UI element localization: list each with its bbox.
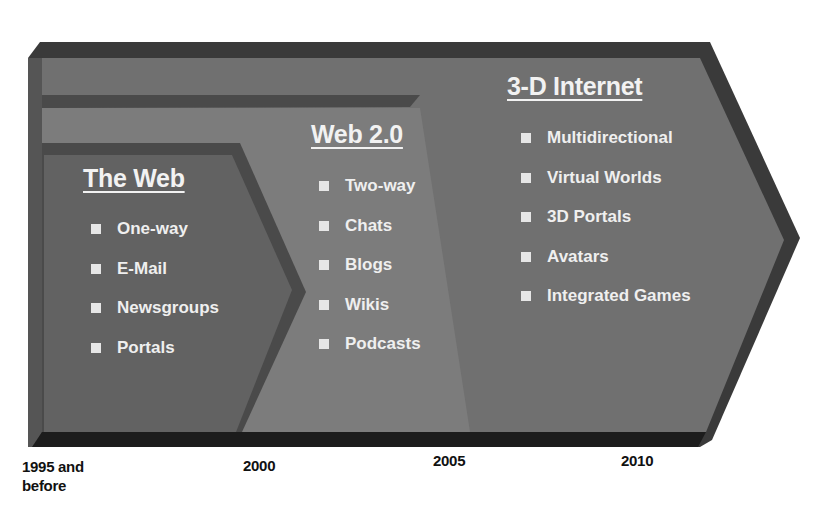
square-bullet-icon: [319, 260, 329, 270]
stage-list-the-web: One-way E-Mail Newsgroups Portals: [91, 219, 219, 377]
timeline-label-2005: 2005: [433, 451, 465, 470]
square-bullet-icon: [319, 221, 329, 231]
square-bullet-icon: [319, 300, 329, 310]
left-edge-bevel: [28, 58, 42, 447]
list-item: Integrated Games: [521, 286, 691, 326]
list-item: Multidirectional: [521, 128, 691, 168]
list-item: Wikis: [319, 295, 421, 335]
square-bullet-icon: [521, 252, 531, 262]
square-bullet-icon: [91, 264, 101, 274]
square-bullet-icon: [521, 212, 531, 222]
square-bullet-icon: [91, 343, 101, 353]
list-item: Portals: [91, 338, 219, 378]
list-item: Two-way: [319, 176, 421, 216]
stage-title-the-web: The Web: [83, 164, 185, 193]
list-item: Blogs: [319, 255, 421, 295]
timeline-label-2010: 2010: [621, 451, 653, 470]
list-item: Virtual Worlds: [521, 168, 691, 208]
square-bullet-icon: [319, 339, 329, 349]
upper-band-strip: [40, 95, 420, 108]
square-bullet-icon: [521, 291, 531, 301]
list-item: E-Mail: [91, 259, 219, 299]
square-bullet-icon: [91, 224, 101, 234]
bottom-band: [32, 432, 706, 447]
stage-title-3d-internet: 3-D Internet: [507, 72, 642, 101]
list-item: Newsgroups: [91, 298, 219, 338]
stage-list-web-2-0: Two-way Chats Blogs Wikis Podcasts: [319, 176, 421, 374]
list-item: Avatars: [521, 247, 691, 287]
square-bullet-icon: [521, 173, 531, 183]
square-bullet-icon: [91, 303, 101, 313]
stage-title-web-2-0: Web 2.0: [311, 120, 403, 149]
square-bullet-icon: [521, 133, 531, 143]
stage-list-3d-internet: Multidirectional Virtual Worlds 3D Porta…: [521, 128, 691, 326]
timeline-label-2000: 2000: [243, 456, 275, 475]
list-item: Podcasts: [319, 334, 421, 374]
list-item: 3D Portals: [521, 207, 691, 247]
list-item: Chats: [319, 216, 421, 256]
square-bullet-icon: [319, 181, 329, 191]
timeline-label-1995: 1995 and before: [22, 457, 84, 495]
list-item: One-way: [91, 219, 219, 259]
